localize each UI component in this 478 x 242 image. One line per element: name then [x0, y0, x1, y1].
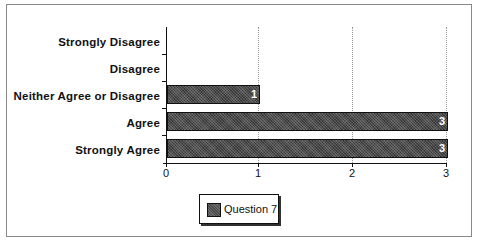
legend-swatch-icon — [207, 203, 221, 217]
category-label-strongly-disagree: Strongly Disagree — [58, 36, 160, 48]
bar-neither: 1 — [167, 85, 260, 104]
bar-strongly-agree: 3 — [167, 139, 448, 158]
bar-value-label: 3 — [439, 142, 445, 154]
x-tick-label-2: 2 — [342, 167, 362, 179]
category-label-neither: Neither Agree or Disagree — [14, 90, 160, 102]
y-tick — [162, 81, 166, 82]
x-tick-label-1: 1 — [248, 167, 268, 179]
category-label-strongly-agree: Strongly Agree — [75, 144, 160, 156]
legend: Question 7 — [199, 194, 279, 224]
x-tick-label-3: 3 — [436, 167, 456, 179]
y-tick — [162, 108, 166, 109]
category-label-disagree: Disagree — [110, 63, 160, 75]
bar-value-label: 1 — [251, 88, 257, 100]
x-axis — [163, 163, 447, 164]
bar-agree: 3 — [167, 112, 448, 131]
legend-label: Question 7 — [224, 203, 277, 215]
y-tick — [162, 135, 166, 136]
category-label-agree: Agree — [126, 117, 160, 129]
bar-value-label: 3 — [439, 115, 445, 127]
y-tick — [162, 54, 166, 55]
x-tick-label-0: 0 — [156, 167, 176, 179]
